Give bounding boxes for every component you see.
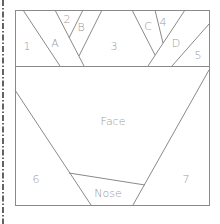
seam-face-nose bbox=[69, 173, 145, 185]
label-7: 7 bbox=[183, 173, 190, 186]
label-nose: Nose bbox=[94, 187, 121, 200]
label-4: 4 bbox=[160, 16, 167, 29]
label-1: 1 bbox=[24, 40, 31, 53]
piece-labels: 1 A 2 B 3 C 4 D 5 Face 6 Nose 7 bbox=[24, 13, 202, 200]
label-D: D bbox=[172, 37, 180, 50]
label-6: 6 bbox=[33, 173, 40, 186]
face-pattern-diagram: 1 A 2 B 3 C 4 D 5 Face 6 Nose 7 bbox=[0, 0, 220, 224]
seam-6-face bbox=[15, 90, 91, 205]
label-B: B bbox=[77, 21, 84, 34]
label-face: Face bbox=[101, 115, 126, 128]
label-A: A bbox=[51, 37, 59, 50]
label-5: 5 bbox=[195, 49, 202, 62]
label-2: 2 bbox=[64, 13, 71, 26]
label-3: 3 bbox=[111, 40, 118, 53]
label-C: C bbox=[144, 20, 152, 33]
